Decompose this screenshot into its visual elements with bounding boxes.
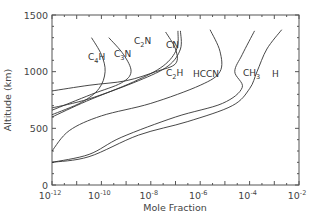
altitude-vs-mole-fraction-chart: 10-1210-1010-810-610-410-2 050010001500 … [0, 0, 318, 217]
curve-hccn [52, 30, 222, 151]
y-tick-label: 0 [42, 180, 48, 191]
label-cn: CN [166, 40, 179, 50]
label-c3n: C3N [114, 49, 131, 62]
x-tick-label: 10-6 [189, 189, 208, 201]
curve-ch3 [52, 31, 255, 162]
y-axis-title: Altitude (km) [2, 69, 13, 131]
curve-c4h [52, 38, 105, 115]
x-axis-title: Mole Fraction [143, 202, 206, 213]
label-h: H [272, 69, 279, 79]
curve-c2n [52, 32, 177, 91]
x-tick-label: 10-12 [39, 189, 62, 201]
y-tick-label: 1500 [24, 10, 48, 21]
x-tick-label: 10-2 [288, 189, 307, 201]
x-tick-label: 10-8 [140, 189, 159, 201]
curve-labels: C4HC3NC2NCNC2HHCCNCH3H [88, 36, 279, 81]
label-c4h: C4H [88, 52, 105, 65]
y-tick-label: 500 [30, 123, 48, 134]
y-tick-label: 1000 [24, 66, 48, 77]
curve-cn [52, 31, 181, 108]
x-tick-label: 10-10 [88, 189, 111, 201]
label-hccn: HCCN [193, 69, 219, 79]
label-c2n: C2N [134, 36, 151, 49]
x-tick-label: 10-4 [238, 189, 257, 201]
label-c2h: C2H [166, 68, 183, 81]
